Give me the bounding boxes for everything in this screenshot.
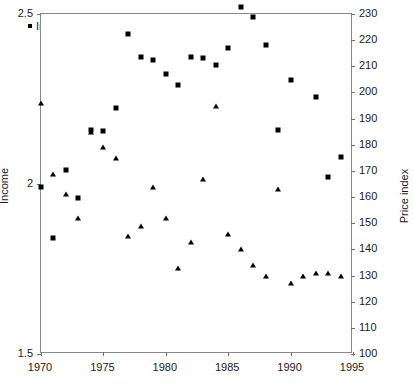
data-point bbox=[288, 78, 293, 83]
right-axis-tick bbox=[351, 328, 355, 329]
data-point bbox=[326, 175, 331, 180]
right-axis-tick-label: 140 bbox=[359, 243, 377, 254]
x-axis-tick bbox=[291, 352, 292, 356]
right-axis-tick-label: 170 bbox=[359, 164, 377, 175]
data-point bbox=[238, 247, 244, 252]
data-point bbox=[188, 54, 193, 59]
right-axis-tick bbox=[351, 145, 355, 146]
data-point bbox=[38, 100, 44, 105]
right-axis-tick-label: 230 bbox=[359, 8, 377, 19]
right-axis-tick bbox=[351, 249, 355, 250]
data-point bbox=[138, 54, 143, 59]
data-point bbox=[275, 187, 281, 192]
data-point bbox=[313, 270, 319, 275]
data-point bbox=[125, 234, 131, 239]
left-axis-title: Income bbox=[0, 156, 10, 216]
x-axis-tick-label: 1995 bbox=[340, 362, 364, 373]
scatter-chart-figure: Income Price index 1.522.5 1001101201301… bbox=[0, 0, 413, 389]
data-point bbox=[176, 83, 181, 88]
right-axis-tick bbox=[351, 171, 355, 172]
data-point bbox=[39, 185, 44, 190]
x-axis-tick-label: 1980 bbox=[153, 362, 177, 373]
data-point bbox=[138, 223, 144, 228]
data-point bbox=[75, 216, 81, 221]
right-axis-tick bbox=[351, 354, 355, 355]
data-point bbox=[151, 57, 156, 62]
right-axis-title: Price index bbox=[399, 156, 410, 236]
data-point bbox=[288, 281, 294, 286]
right-axis-tick-label: 130 bbox=[359, 269, 377, 280]
right-axis-tick-label: 120 bbox=[359, 295, 377, 306]
x-axis-tick bbox=[228, 352, 229, 356]
right-axis-tick-label: 220 bbox=[359, 34, 377, 45]
data-point bbox=[213, 103, 219, 108]
data-point bbox=[313, 95, 318, 100]
data-point bbox=[263, 273, 269, 278]
right-axis-tick bbox=[351, 197, 355, 198]
data-point bbox=[300, 273, 306, 278]
data-point bbox=[63, 168, 68, 173]
data-point bbox=[51, 236, 56, 241]
right-axis-tick bbox=[351, 14, 355, 15]
left-axis-tick bbox=[37, 184, 41, 185]
data-point bbox=[113, 155, 119, 160]
data-point bbox=[163, 71, 168, 76]
right-axis-tick bbox=[351, 302, 355, 303]
x-axis-tick bbox=[41, 352, 42, 356]
right-axis-tick-label: 100 bbox=[359, 348, 377, 359]
right-axis-tick-label: 160 bbox=[359, 191, 377, 202]
data-point bbox=[175, 265, 181, 270]
left-axis-tick bbox=[37, 354, 41, 355]
x-axis-tick-label: 1975 bbox=[90, 362, 114, 373]
plot-area bbox=[40, 13, 352, 353]
right-axis-tick-label: 210 bbox=[359, 60, 377, 71]
data-point bbox=[225, 231, 231, 236]
x-axis-tick bbox=[166, 352, 167, 356]
data-point bbox=[338, 273, 344, 278]
data-point bbox=[226, 46, 231, 51]
data-point bbox=[76, 195, 81, 200]
right-axis-tick bbox=[351, 92, 355, 93]
right-axis-tick-label: 110 bbox=[359, 321, 377, 332]
data-point bbox=[88, 127, 93, 132]
right-axis-tick bbox=[351, 119, 355, 120]
right-axis-tick-label: 150 bbox=[359, 217, 377, 228]
x-axis-tick-label: 1985 bbox=[215, 362, 239, 373]
series-price-index-points bbox=[41, 14, 351, 352]
data-point bbox=[101, 129, 106, 134]
square-marker-icon bbox=[28, 24, 32, 28]
left-axis-tick-label: 2.5 bbox=[0, 8, 33, 19]
data-point bbox=[250, 263, 256, 268]
right-axis-tick-label: 180 bbox=[359, 138, 377, 149]
right-axis-tick bbox=[351, 223, 355, 224]
data-point bbox=[126, 32, 131, 37]
x-axis-tick-label: 1970 bbox=[28, 362, 52, 373]
data-point bbox=[200, 176, 206, 181]
right-axis-tick-label: 200 bbox=[359, 86, 377, 97]
data-point bbox=[338, 154, 343, 159]
data-point bbox=[88, 129, 94, 134]
right-axis-tick bbox=[351, 276, 355, 277]
series-income-points bbox=[41, 14, 351, 352]
left-axis-tick-label: 1.5 bbox=[0, 348, 33, 359]
left-axis-tick bbox=[37, 14, 41, 15]
x-axis-tick bbox=[103, 352, 104, 356]
data-point bbox=[325, 270, 331, 275]
data-point bbox=[251, 15, 256, 20]
data-point bbox=[63, 192, 69, 197]
x-axis-tick-label: 1990 bbox=[277, 362, 301, 373]
data-point bbox=[188, 239, 194, 244]
x-axis-tick bbox=[353, 352, 354, 356]
data-point bbox=[276, 127, 281, 132]
right-axis-tick bbox=[351, 40, 355, 41]
data-point bbox=[150, 184, 156, 189]
data-point bbox=[213, 63, 218, 68]
data-point bbox=[113, 105, 118, 110]
data-point bbox=[50, 171, 56, 176]
data-point bbox=[201, 56, 206, 61]
axis-ticks-layer bbox=[41, 14, 351, 352]
data-point bbox=[163, 216, 169, 221]
right-axis-tick bbox=[351, 66, 355, 67]
right-axis-tick-label: 190 bbox=[359, 112, 377, 123]
data-point bbox=[100, 145, 106, 150]
